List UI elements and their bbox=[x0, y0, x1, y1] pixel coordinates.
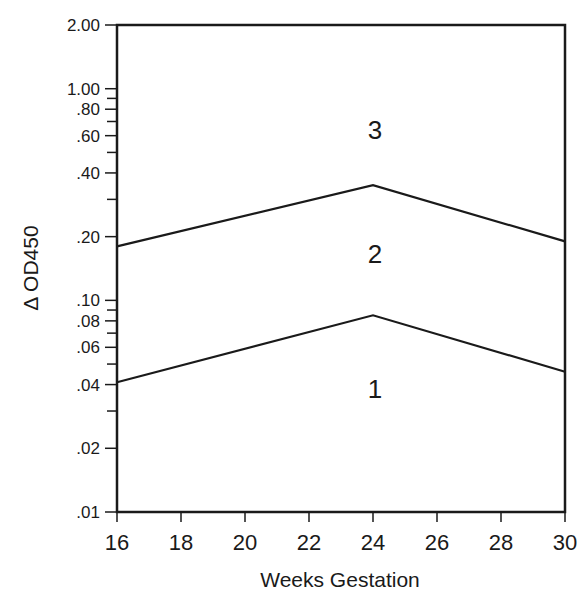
upper-boundary-line bbox=[117, 185, 565, 246]
x-tick-label: 18 bbox=[169, 530, 193, 555]
y-tick-label: .80 bbox=[76, 100, 100, 119]
x-tick-label: 16 bbox=[105, 530, 129, 555]
x-tick-label: 26 bbox=[425, 530, 449, 555]
y-tick-label: .40 bbox=[76, 164, 100, 183]
y-tick-label: .02 bbox=[76, 439, 100, 458]
plot-frame bbox=[117, 25, 565, 512]
lower-boundary-line bbox=[117, 315, 565, 382]
x-tick-label: 28 bbox=[489, 530, 513, 555]
y-axis-title: Δ OD450 bbox=[19, 225, 42, 310]
series-lines bbox=[117, 185, 565, 382]
y-tick-label: .60 bbox=[76, 127, 100, 146]
zone-2-label: 2 bbox=[368, 239, 382, 269]
y-tick-label: .08 bbox=[76, 312, 100, 331]
y-tick-label: .04 bbox=[76, 376, 100, 395]
x-tick-label: 20 bbox=[233, 530, 257, 555]
y-tick-label: 1.00 bbox=[67, 80, 100, 99]
liley-chart: 2.001.00.80.60.40.20.10.08.06.04.02.01 1… bbox=[0, 0, 582, 592]
y-tick-label: 2.00 bbox=[67, 16, 100, 35]
x-tick-label: 24 bbox=[361, 530, 385, 555]
x-tick-label: 30 bbox=[553, 530, 577, 555]
y-axis: 2.001.00.80.60.40.20.10.08.06.04.02.01 bbox=[67, 16, 117, 522]
zone-1-label: 1 bbox=[368, 374, 382, 404]
zone-3-label: 3 bbox=[368, 115, 382, 145]
x-axis-title: Weeks Gestation bbox=[260, 568, 420, 591]
x-axis: 1618202224262830 bbox=[105, 512, 577, 555]
y-tick-label: .06 bbox=[76, 338, 100, 357]
y-tick-label: .01 bbox=[76, 503, 100, 522]
x-tick-label: 22 bbox=[297, 530, 321, 555]
y-tick-label: .20 bbox=[76, 228, 100, 247]
y-tick-label: .10 bbox=[76, 291, 100, 310]
